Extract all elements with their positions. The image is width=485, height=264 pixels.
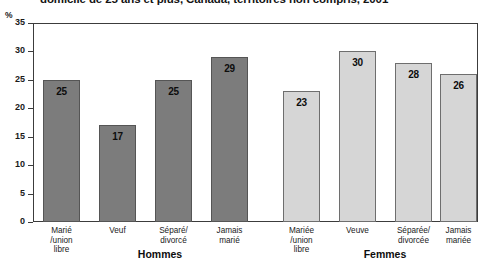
x-axis-category-label: Veuve <box>328 226 388 236</box>
group-label-femmes: Femmes <box>325 248 445 260</box>
y-axis-tick-mark <box>28 222 33 223</box>
y-axis-tick-label: 0 <box>20 216 25 227</box>
x-axis-category-label: Séparé/ divorcé <box>144 226 204 245</box>
y-axis-tick-mark <box>28 194 33 195</box>
y-axis-tick-5: 5 <box>0 194 33 195</box>
group-label-hommes: Hommes <box>100 248 220 260</box>
x-axis-category-label: Jamais marié <box>200 226 260 245</box>
y-axis-tick-mark <box>28 51 33 52</box>
y-axis-tick-mark <box>28 137 33 138</box>
y-axis-unit-label: % <box>5 10 13 20</box>
y-axis-tick-label: 15 <box>15 131 25 142</box>
x-axis-category-label: Jamais mariée <box>429 226 485 245</box>
y-axis-tick-15: 15 <box>0 137 33 138</box>
x-axis-category-label: Veuf <box>88 226 148 236</box>
x-axis-category-label: Marié /union libre <box>32 226 92 255</box>
y-axis-tick-mark <box>28 23 33 24</box>
chart-title: domicile de 25 ans et plus, Canada, terr… <box>40 0 480 5</box>
y-axis-tick-mark <box>28 165 33 166</box>
y-axis-tick-20: 20 <box>0 108 33 109</box>
y-axis-tick-label: 25 <box>15 74 25 85</box>
y-axis-tick-10: 10 <box>0 165 33 166</box>
y-axis-tick-label: 20 <box>15 102 25 113</box>
y-axis-tick-25: 25 <box>0 80 33 81</box>
x-axis-category-label: Mariée /union libre <box>272 226 332 255</box>
chart-figure: domicile de 25 ans et plus, Canada, terr… <box>0 0 485 264</box>
y-axis-tick-30: 30 <box>0 51 33 52</box>
y-axis-tick-0: 0 <box>0 222 33 223</box>
y-axis-tick-label: 35 <box>15 17 25 28</box>
y-axis-tick-label: 30 <box>15 45 25 56</box>
plot-area <box>33 23 478 222</box>
y-axis-tick-label: 5 <box>20 188 25 199</box>
y-axis-tick-label: 10 <box>15 159 25 170</box>
y-axis-tick-mark <box>28 80 33 81</box>
y-axis-tick-mark <box>28 108 33 109</box>
y-axis-tick-35: 35 <box>0 23 33 24</box>
